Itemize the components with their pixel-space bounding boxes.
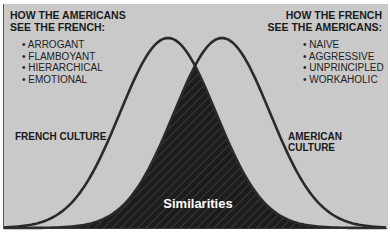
french-culture-label: FRENCH CULTURE xyxy=(15,131,106,142)
left-traits-list: ARROGANT FLAMBOYANT HIERARCHICAL EMOTION… xyxy=(22,39,103,85)
list-item: AGGRESSIVE xyxy=(303,51,384,63)
list-item: FLAMBOYANT xyxy=(22,51,103,63)
american-culture-label: AMERICAN CULTURE xyxy=(288,131,390,153)
similarities-label: Similarities xyxy=(148,196,248,211)
list-item: ARROGANT xyxy=(22,39,103,51)
list-item: WORKAHOLIC xyxy=(303,74,384,86)
list-item: HIERARCHICAL xyxy=(22,62,103,74)
left-heading: HOW THE AMERICANS SEE THE FRENCH: xyxy=(10,9,126,33)
right-traits-list: NAIVE AGGRESSIVE UNPRINCIPLED WORKAHOLIC xyxy=(303,39,384,85)
right-heading-line1: HOW THE FRENCH xyxy=(267,9,382,21)
list-item: UNPRINCIPLED xyxy=(303,62,384,74)
left-heading-line2: SEE THE FRENCH: xyxy=(10,21,126,33)
list-item: NAIVE xyxy=(303,39,384,51)
right-heading: HOW THE FRENCH SEE THE AMERICANS: xyxy=(267,9,382,33)
left-heading-line1: HOW THE AMERICANS xyxy=(10,9,126,21)
list-item: EMOTIONAL xyxy=(22,74,103,86)
right-heading-line2: SEE THE AMERICANS: xyxy=(267,21,382,33)
